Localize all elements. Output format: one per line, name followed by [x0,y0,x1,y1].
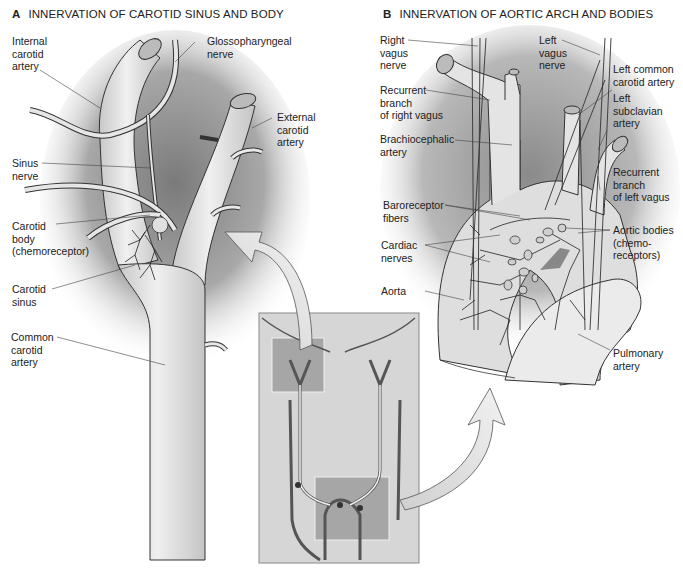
label-cardiac-nerves: Cardiac nerves [381,239,417,264]
label-sinus-nerve: Sinus nerve [12,157,38,182]
label-aortic-bodies: Aortic bodies (chemo- receptors) [613,224,674,262]
anatomy-illustration [0,0,683,570]
label-internal-carotid-artery: Internal carotid artery [12,35,47,73]
label-left-vagus-nerve: Left vagus nerve [539,34,567,72]
label-common-carotid-artery: Common carotid artery [11,331,54,369]
body-overview-inset [259,313,419,563]
label-left-common-carotid-artery: Left common carotid artery [613,63,674,88]
label-glossopharyngeal-nerve: Glossopharyngeal nerve [207,35,292,60]
label-carotid-body: Carotid body (chemoreceptor) [12,220,89,258]
label-left-subclavian-artery: Left subclavian artery [613,92,663,130]
label-baroreceptor-fibers: Baroreceptor fibers [383,199,444,224]
label-recurrent-branch-right-vagus: Recurrent branch of right vagus [380,84,443,122]
label-external-carotid-artery: External carotid artery [277,111,316,149]
label-brachiocephalic-artery: Brachiocephalic artery [380,133,454,158]
label-carotid-sinus: Carotid sinus [12,283,46,308]
label-right-vagus-nerve: Right vagus nerve [380,34,408,72]
label-aorta: Aorta [381,285,406,298]
label-pulmonary-artery: Pulmonary artery [613,347,663,372]
label-recurrent-branch-left-vagus: Recurrent branch of left vagus [613,166,670,204]
